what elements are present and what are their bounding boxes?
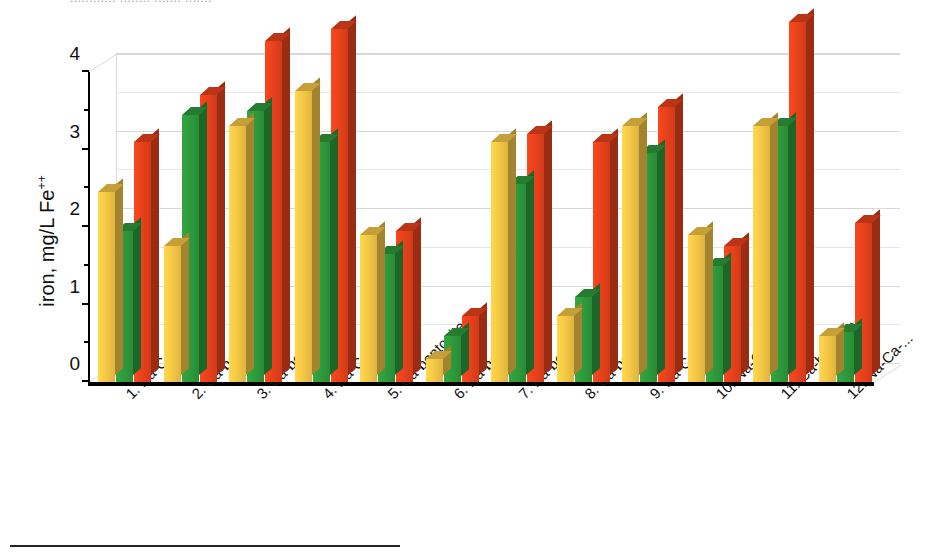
- y-axis-minor-tick: [84, 264, 89, 266]
- bar-side: [508, 128, 516, 375]
- bar[interactable]: [164, 246, 181, 382]
- bar[interactable]: [622, 126, 639, 382]
- bar-side: [639, 113, 647, 375]
- y-axis-minor-tick: [84, 186, 89, 188]
- bar[interactable]: [98, 192, 115, 382]
- bar-side: [806, 8, 814, 375]
- bar-face: [688, 235, 705, 382]
- bar-group: [360, 72, 414, 382]
- bar[interactable]: [557, 316, 574, 382]
- bar[interactable]: [753, 126, 770, 382]
- bar-side: [246, 113, 254, 375]
- bar-group: [491, 72, 545, 382]
- bottom-divider: [10, 545, 400, 547]
- bar-group: [622, 72, 676, 382]
- top-cutoff-strip: ............ ........ ....... .......: [0, 0, 925, 8]
- y-axis-minor-tick: [84, 109, 89, 111]
- y-axis-title-superscript: ++: [35, 175, 49, 189]
- bar-face: [557, 316, 574, 382]
- y-axis-tick: [82, 70, 89, 72]
- gridline: [116, 53, 900, 54]
- bar-side: [377, 221, 385, 375]
- bar-side: [526, 171, 534, 375]
- bar-face: [295, 91, 312, 382]
- bar-side: [872, 209, 880, 375]
- bar-side: [723, 252, 731, 375]
- bar-side: [705, 221, 713, 375]
- y-axis-tick-label: 2: [54, 199, 80, 218]
- bar-side: [657, 140, 665, 375]
- bar-group: [295, 72, 349, 382]
- y-axis-tick-label: 4: [54, 44, 80, 63]
- bar-face: [98, 192, 115, 382]
- x-axis-labels: 1. Na-Ca-bentonite2. Ca-bentonite3. Ca-b…: [0, 386, 925, 536]
- bar-group: [557, 72, 611, 382]
- bar[interactable]: [229, 126, 246, 382]
- bar-face: [426, 359, 443, 382]
- bar[interactable]: [360, 235, 377, 382]
- y-axis-minor-tick: [84, 341, 89, 343]
- bar-side: [199, 101, 207, 375]
- bar-side: [151, 128, 159, 375]
- bar-side: [413, 217, 421, 375]
- bar-side: [282, 27, 290, 375]
- top-cutoff-text: ............ ........ ....... .......: [70, 0, 212, 5]
- bar-side: [675, 93, 683, 375]
- bar-side: [592, 283, 600, 375]
- wall-diagonal: [88, 54, 117, 73]
- bar-side: [217, 82, 225, 375]
- bar-side: [741, 233, 749, 375]
- y-axis-tick: [82, 148, 89, 150]
- bar-face: [753, 126, 770, 382]
- bar-side: [181, 233, 189, 375]
- y-axis-tick: [82, 225, 89, 227]
- bar-side: [788, 113, 796, 375]
- bar-group: [164, 72, 218, 382]
- bar[interactable]: [688, 235, 705, 382]
- bar-face: [622, 126, 639, 382]
- bar-side: [133, 217, 141, 375]
- plot-area: 01234: [88, 72, 900, 382]
- bar[interactable]: [491, 142, 508, 382]
- bar-side: [610, 128, 618, 375]
- bar-face: [491, 142, 508, 382]
- y-axis-tick-label: 3: [54, 121, 80, 140]
- bar-face: [229, 126, 246, 382]
- bar-face: [819, 336, 836, 383]
- bar-side: [264, 97, 272, 375]
- bar-side: [544, 120, 552, 375]
- bar-side: [770, 113, 778, 375]
- bar-group: [819, 72, 873, 382]
- bar-group: [753, 72, 807, 382]
- bar-side: [312, 78, 320, 375]
- bar-face: [164, 246, 181, 382]
- bar-side: [330, 128, 338, 375]
- bar-side: [115, 178, 123, 375]
- y-axis-tick-label: 1: [54, 276, 80, 295]
- y-axis-tick: [82, 303, 89, 305]
- y-axis-line: [88, 72, 90, 382]
- bar-side: [348, 16, 356, 375]
- bar-group: [229, 72, 283, 382]
- bar-side: [395, 240, 403, 375]
- bar-group: [688, 72, 742, 382]
- bar-face: [360, 235, 377, 382]
- y-axis-tick-label: 0: [54, 354, 80, 373]
- bar-chart: iron, mg/L Fe++ 01234 1. Na-Ca-bentonite…: [0, 14, 925, 559]
- bar[interactable]: [819, 336, 836, 383]
- bar[interactable]: [295, 91, 312, 382]
- bar[interactable]: [426, 359, 443, 382]
- bar-group: [98, 72, 152, 382]
- bar-group: [426, 72, 480, 382]
